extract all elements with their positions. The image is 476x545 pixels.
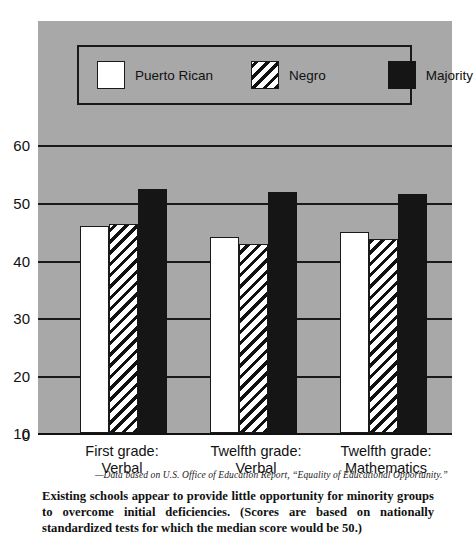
legend-item-negro: Negro bbox=[251, 47, 326, 103]
plot-panel: Puerto Rican Negro Majority bbox=[38, 21, 452, 435]
y-tick-30: 30 bbox=[0, 311, 30, 326]
bar-2-negro bbox=[369, 239, 398, 433]
x-category-1-line1: Twelfth grade: bbox=[181, 443, 331, 460]
bar-2-puerto-rican bbox=[340, 232, 369, 433]
bar-0-puerto-rican bbox=[80, 226, 109, 433]
figure-caption: Existing schools appear to provide littl… bbox=[42, 488, 434, 536]
bar-0-negro bbox=[109, 224, 138, 433]
bar-1-puerto-rican bbox=[210, 237, 239, 433]
y-tick-60: 60 bbox=[0, 138, 30, 153]
y-tick-0: 0 bbox=[0, 428, 30, 443]
y-tick-50: 50 bbox=[0, 196, 30, 211]
source-note: —Data based on U.S. Office of Education … bbox=[95, 470, 465, 480]
bar-chart-figure: Puerto Rican Negro Majority 60 50 40 30 … bbox=[0, 0, 476, 545]
legend-label-puerto-rican: Puerto Rican bbox=[135, 68, 213, 83]
legend-item-puerto-rican: Puerto Rican bbox=[97, 47, 213, 103]
legend-item-majority: Majority bbox=[388, 47, 473, 103]
bar-1-negro bbox=[239, 244, 268, 433]
legend-swatch-black-icon bbox=[388, 61, 416, 89]
legend-label-negro: Negro bbox=[289, 68, 326, 83]
legend-label-majority: Majority bbox=[426, 68, 473, 83]
legend-swatch-white-icon bbox=[97, 61, 125, 89]
legend: Puerto Rican Negro Majority bbox=[77, 45, 412, 105]
bar-1-majority bbox=[268, 192, 297, 433]
x-category-0-line1: First grade: bbox=[47, 443, 197, 460]
bar-0-majority bbox=[138, 189, 167, 433]
x-category-2-line1: Twelfth grade: bbox=[311, 443, 461, 460]
y-tick-20: 20 bbox=[0, 369, 30, 384]
legend-swatch-hatch-icon bbox=[251, 61, 279, 89]
y-tick-40: 40 bbox=[0, 254, 30, 269]
bar-2-majority bbox=[398, 194, 427, 433]
